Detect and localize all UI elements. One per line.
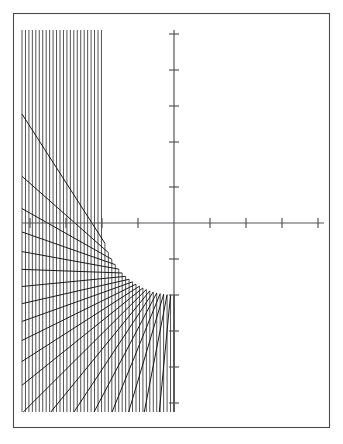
caustic-plot — [0, 0, 343, 444]
reflected-ray — [74, 292, 153, 412]
reflected-ray — [23, 289, 146, 412]
reflected-ray — [22, 288, 143, 385]
reflected-ray — [22, 279, 129, 303]
reflected-ray — [22, 269, 122, 273]
axes-group — [22, 30, 324, 412]
reflected-ray — [51, 291, 150, 412]
figure-root — [0, 0, 343, 444]
reflected-ray — [22, 176, 108, 252]
reflected-ray — [159, 295, 170, 412]
